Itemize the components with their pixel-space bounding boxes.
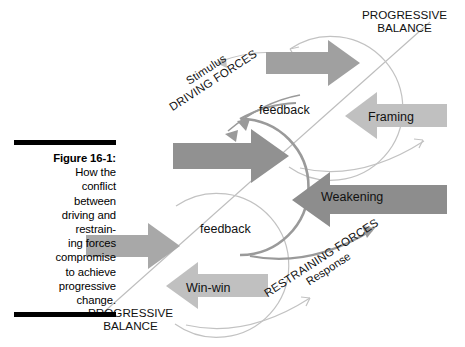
caption-line-3: driving and <box>14 208 116 222</box>
progressive-balance-bottom-line2: BALANCE <box>103 319 158 332</box>
feedback-loop-lower-tail <box>186 298 310 329</box>
label-feedback-top: feedback <box>259 103 310 117</box>
arrow-top-right-driving <box>266 40 360 86</box>
caption-line-0: How the <box>14 165 116 179</box>
progressive-balance-top-line1: PROGRESSIVE <box>362 8 447 21</box>
figure-caption-block: Figure 16-1: How the conflict between dr… <box>14 140 116 317</box>
figure-container: PROGRESSIVE BALANCE PROGRESSIVE BALANCE … <box>0 0 465 347</box>
caption-line-7: to achieve <box>14 265 116 279</box>
feedback-loop-lower <box>175 193 289 337</box>
central-loop-arrowhead-upper <box>237 119 250 131</box>
arrow-label-framing: Framing <box>368 110 414 124</box>
caption-line-6: compromise <box>14 250 116 264</box>
label-progressive-balance-top: PROGRESSIVE BALANCE <box>362 8 447 35</box>
guide-arc-driving-arrowhead <box>225 130 238 142</box>
progressive-balance-top-line2: BALANCE <box>377 21 432 34</box>
figure-caption-text: Figure 16-1: How the conflict between dr… <box>14 151 116 307</box>
arrow-label-weakening: Weakening <box>321 190 383 204</box>
caption-rule-top <box>14 140 116 145</box>
label-feedback-bottom: feedback <box>200 222 251 236</box>
arrow-label-winwin: Win-win <box>186 281 230 295</box>
caption-line-8: progressive <box>14 279 116 293</box>
caption-line-1: conflict <box>14 179 116 193</box>
caption-line-4: restrain- <box>14 222 116 236</box>
feedback-loop-upper-tail <box>300 141 424 172</box>
caption-line-5: ing forces <box>14 236 116 250</box>
caption-line-2: between <box>14 194 116 208</box>
caption-line-9: change. <box>14 293 116 307</box>
caption-rule-bottom <box>14 312 116 317</box>
figure-label: Figure 16-1: <box>14 151 116 165</box>
